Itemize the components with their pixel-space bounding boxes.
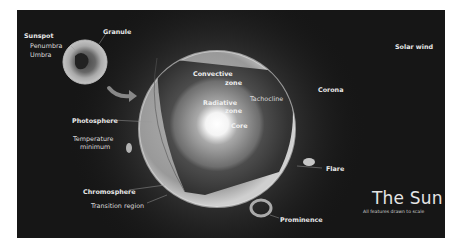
label-sunspot: Sunspot: [24, 33, 54, 39]
label-tachocline: Tachocline: [250, 96, 283, 102]
label-temperature-minimum-2: minimum: [80, 144, 110, 150]
label-umbra: Umbra: [30, 52, 52, 58]
label-radiative-zone-1: Radiative: [203, 100, 237, 106]
label-chromosphere: Chromosphere: [83, 189, 136, 195]
flare-bright: [303, 158, 315, 166]
label-solar-wind: Solar wind: [395, 44, 433, 50]
label-granule: Granule: [103, 29, 131, 35]
label-flare: Flare: [326, 166, 344, 172]
label-convective-zone-1: Convective: [193, 71, 233, 77]
label-corona: Corona: [318, 87, 344, 93]
label-transition-region: Transition region: [91, 203, 144, 209]
diagram-subtitle: All features drawn to scale: [363, 210, 424, 215]
label-radiative-zone-2: zone: [225, 108, 242, 114]
label-temperature-minimum-1: Temperature: [73, 136, 113, 142]
diagram-title: The Sun: [372, 190, 443, 207]
label-core: Core: [231, 123, 248, 129]
label-penumbra: Penumbra: [30, 43, 62, 49]
diagram-panel: Sunspot Penumbra Umbra Granule Solar win…: [17, 10, 445, 238]
label-prominence: Prominence: [280, 217, 323, 223]
label-photosphere: Photosphere: [72, 118, 118, 124]
label-convective-zone-2: zone: [225, 80, 242, 86]
